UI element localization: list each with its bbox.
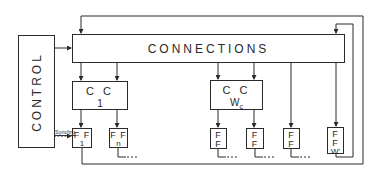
- ff-block-5: F F: [283, 128, 300, 149]
- ff-label: F F: [247, 131, 263, 149]
- cc-sub: 1: [73, 99, 127, 109]
- ff-block-4: F F: [246, 128, 264, 149]
- control-label: CONTROL: [30, 52, 44, 132]
- cc-block-1: C C 1: [72, 81, 128, 110]
- ff-label: F F: [284, 131, 299, 149]
- cc-block-wc: C C Wc: [210, 80, 263, 110]
- ff-block-n: F F n: [109, 128, 128, 148]
- connections-label: CONNECTIONS: [73, 43, 344, 55]
- ff-block-w: F F W': [327, 127, 344, 154]
- control-block: CONTROL: [18, 35, 55, 148]
- ff-sub: 1: [73, 140, 91, 148]
- cc-sub: Wc: [211, 98, 262, 110]
- synchro-label: Synchro: [55, 129, 75, 135]
- ff-sub: n: [110, 140, 127, 148]
- connection-lines: [0, 0, 378, 173]
- connections-block: CONNECTIONS: [72, 34, 345, 63]
- ff-block-3: F F: [210, 128, 227, 149]
- cc-label: C C: [73, 86, 127, 97]
- cc-label: C C: [211, 85, 262, 96]
- ff-sub: W': [328, 148, 343, 156]
- ff-label: F F: [328, 130, 343, 148]
- ff-label: F F: [211, 131, 226, 149]
